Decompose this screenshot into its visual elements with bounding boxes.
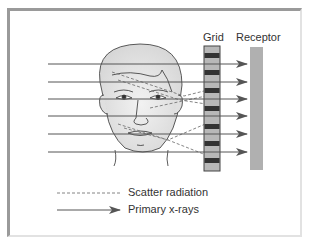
- legend-primary-label: Primary x-rays: [128, 203, 199, 215]
- receptor-label: Receptor: [236, 31, 281, 43]
- legend-scatter-label: Scatter radiation: [128, 186, 208, 198]
- image-receptor: [250, 47, 263, 170]
- grid-label: Grid: [203, 31, 224, 43]
- head-illustration: [100, 44, 183, 166]
